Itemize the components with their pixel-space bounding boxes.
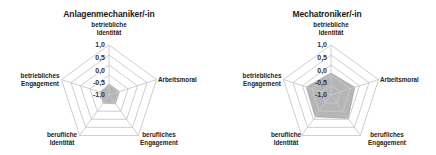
tick-label: -0,5 bbox=[85, 79, 105, 87]
tick-label: -0,5 bbox=[307, 79, 327, 87]
tick-label: 1,0 bbox=[307, 41, 327, 49]
axis-label-line: Identität bbox=[266, 139, 306, 147]
axis-label-line: Identität bbox=[306, 29, 356, 37]
axis-label-line: betriebliches bbox=[16, 72, 64, 80]
axis-label-line: berufliches bbox=[133, 131, 185, 139]
axis-label-arbeitsmoral: Arbeitsmoral bbox=[158, 76, 197, 84]
axis-label-line: berufliches bbox=[361, 131, 413, 139]
tick-label: -1,0 bbox=[307, 91, 327, 99]
tick-label: 0,0 bbox=[307, 67, 327, 75]
axis-label-line: Engagement bbox=[16, 80, 64, 88]
axis-label-betriebliche-identitaet: betriebliche Identität bbox=[306, 21, 356, 37]
tick-label: 1,0 bbox=[85, 41, 105, 49]
axis-label-line: berufliche bbox=[42, 131, 82, 139]
radar-chart-mechatroniker: Mechatroniker/-in betriebliche Identität… bbox=[218, 0, 436, 155]
axis-label-line: Identität bbox=[84, 29, 134, 37]
axis-label-betriebliche-identitaet: betriebliche Identität bbox=[84, 21, 134, 37]
axis-label-line: betriebliche bbox=[306, 21, 356, 29]
radar-chart-anlagenmechaniker: Anlagenmechaniker/-in betriebliche Ident… bbox=[0, 0, 218, 155]
tick-label: -1,0 bbox=[85, 91, 105, 99]
axis-label-berufliches-engagement: berufliches Engagement bbox=[133, 131, 185, 147]
axis-label-betriebliches-engagement: betriebliches Engagement bbox=[16, 72, 64, 88]
axis-label-berufliche-identitaet: berufliche Identität bbox=[42, 131, 82, 147]
tick-label: 0,5 bbox=[85, 54, 105, 62]
axis-label-line: berufliche bbox=[266, 131, 306, 139]
axis-label-line: betriebliche bbox=[84, 21, 134, 29]
axis-label-line: Engagement bbox=[361, 139, 413, 147]
axis-label-line: Engagement bbox=[133, 139, 185, 147]
axis-label-betriebliches-engagement: betriebliches Engagement bbox=[238, 72, 286, 88]
axis-label-arbeitsmoral: Arbeitsmoral bbox=[380, 76, 419, 84]
chart-title: Anlagenmechaniker/-in bbox=[0, 9, 218, 19]
tick-label: 0,0 bbox=[85, 67, 105, 75]
chart-title: Mechatroniker/-in bbox=[218, 9, 436, 19]
axis-label-berufliche-identitaet: berufliche Identität bbox=[266, 131, 306, 147]
axis-label-berufliches-engagement: berufliches Engagement bbox=[361, 131, 413, 147]
axis-label-line: Identität bbox=[42, 139, 82, 147]
axis-label-line: Engagement bbox=[238, 80, 286, 88]
tick-label: 0,5 bbox=[307, 54, 327, 62]
axis-label-line: betriebliches bbox=[238, 72, 286, 80]
